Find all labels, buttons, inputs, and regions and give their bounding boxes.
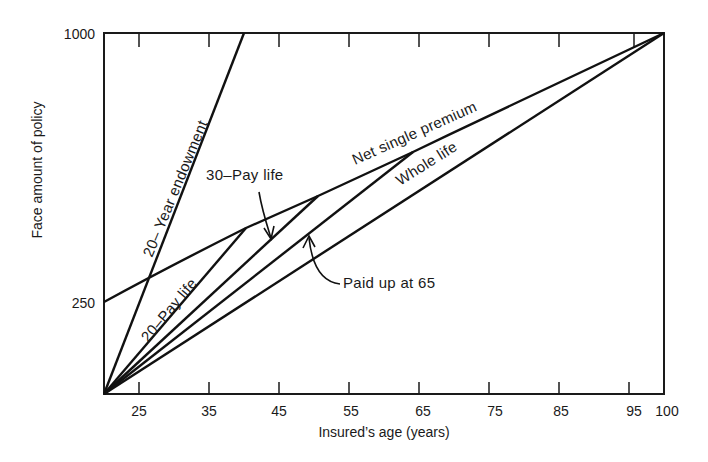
whole-life-line xyxy=(104,33,664,394)
label-thirty-pay-life: 30–Pay life xyxy=(206,166,284,183)
y-axis-title: Face amount of policy xyxy=(29,102,45,239)
thirty-pay-life-line xyxy=(104,196,318,394)
x-tick-label: 95 xyxy=(626,403,642,419)
x-axis-ticks xyxy=(139,382,629,394)
label-twenty-year-endowment: 20– Year endowment xyxy=(139,117,211,259)
y-tick-label-1000: 1000 xyxy=(64,26,95,42)
label-paid-up-at-65: Paid up at 65 xyxy=(343,274,435,291)
arrow-paid-up-at-65 xyxy=(303,236,340,284)
x-tick-label: 75 xyxy=(487,403,503,419)
x-tick-label: 100 xyxy=(655,403,679,419)
y-tick-label-250: 250 xyxy=(72,295,96,311)
x-tick-labels: 25 35 45 55 65 75 85 95 100 xyxy=(131,403,679,419)
x-axis-title: Insured’s age (years) xyxy=(318,424,449,440)
x-tick-label: 85 xyxy=(553,403,569,419)
x-tick-label: 25 xyxy=(131,403,147,419)
top-axis-ticks xyxy=(139,33,634,47)
x-tick-label: 45 xyxy=(271,403,287,419)
x-tick-label: 35 xyxy=(201,403,217,419)
x-tick-label: 55 xyxy=(343,403,359,419)
x-tick-label: 65 xyxy=(415,403,431,419)
label-net-single-premium: Net single premium xyxy=(349,97,479,167)
policy-face-amount-chart: 25 35 45 55 65 75 85 95 100 250 1000 Ins… xyxy=(0,0,708,462)
